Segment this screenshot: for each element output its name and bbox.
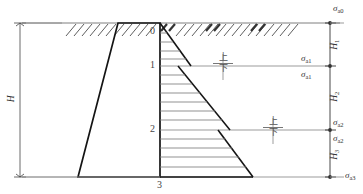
node-label-0: 0: [150, 26, 155, 36]
sigma-subscript: a1: [305, 57, 311, 64]
H-glyph: H: [329, 153, 339, 160]
pressure-edge-layer-1: [160, 23, 191, 66]
level-lines: [22, 66, 330, 177]
stress-label-sigma-a2-lower: σa2: [333, 134, 344, 143]
sigma-subscript: a0: [337, 7, 343, 14]
pressure-diagram-hatch: [160, 33, 246, 167]
stress-label-sigma-a1-lower: σa1: [301, 70, 312, 79]
stress-label-sigma-a0: σa0: [333, 4, 344, 13]
layer-dimension-label-H3: H3: [330, 146, 340, 164]
H-subscript: 2: [333, 92, 340, 95]
pressure-diagram-outline: [160, 23, 253, 177]
diagram-canvas: H 0 1 2 3 σa0 σa1 σa1 σa2 σa2 σa3 H1 H2 …: [0, 0, 363, 194]
H-subscript: 1: [333, 40, 340, 43]
left-dimension-leaders: [22, 23, 78, 177]
stress-label-sigma-a1-upper: σa1: [301, 54, 312, 63]
marker-upper-char: 上: [213, 53, 233, 62]
stress-label-sigma-a2-upper: σa2: [333, 118, 344, 127]
interface-marker-level-1: 上 下: [213, 53, 233, 74]
node-label-3: 3: [157, 180, 162, 190]
sigma-subscript: a2: [337, 137, 343, 144]
layer-dimension-label-H1: H1: [330, 36, 340, 54]
sigma-subscript: a1: [305, 73, 311, 80]
H-glyph: H: [329, 95, 339, 102]
H-subscript: 3: [333, 150, 340, 153]
retaining-wall-outline: [78, 23, 160, 177]
layer-dimension-label-H2: H2: [330, 88, 340, 106]
marker-upper-char: 上: [263, 117, 283, 126]
dimension-label-H: H: [7, 90, 17, 108]
sigma-subscript: a3: [349, 174, 355, 181]
ground-hatch-icon: [66, 24, 298, 36]
H-glyph: H: [329, 43, 339, 50]
diagram-vector: [0, 0, 363, 194]
node-label-2: 2: [150, 124, 155, 134]
sigma-subscript: a2: [337, 121, 343, 128]
pressure-edge-layer-3: [218, 130, 253, 177]
interface-marker-level-2: 上 下: [263, 117, 283, 138]
marker-lower-char: 下: [213, 64, 233, 73]
stress-label-sigma-a3: σa3: [345, 171, 356, 180]
marker-lower-char: 下: [263, 128, 283, 137]
node-label-1: 1: [150, 60, 155, 70]
